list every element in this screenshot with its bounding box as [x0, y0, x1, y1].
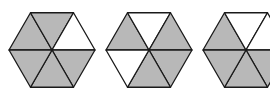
hexagon-3	[203, 13, 270, 87]
hexagon-fraction-diagram	[0, 0, 270, 98]
hexagon-2	[106, 13, 192, 87]
hexagon-1	[9, 13, 95, 87]
